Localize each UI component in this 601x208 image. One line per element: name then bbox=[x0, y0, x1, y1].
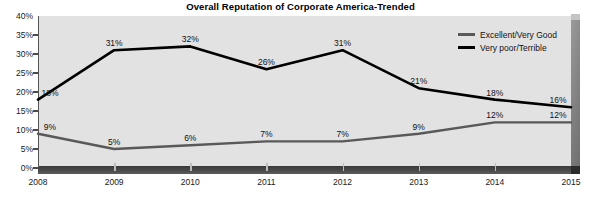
legend-item[interactable]: Excellent/Very Good bbox=[458, 28, 557, 41]
data-label-very-poor-terrible: 16% bbox=[541, 95, 575, 105]
chart-container: Overall Reputation of Corporate America-… bbox=[0, 0, 601, 208]
legend-item-label: Very poor/Terrible bbox=[480, 43, 547, 53]
data-label-excellent-very-good: 6% bbox=[173, 133, 207, 143]
legend-line-swatch bbox=[458, 46, 475, 49]
data-label-excellent-very-good: 9% bbox=[402, 122, 436, 132]
data-label-excellent-very-good: 12% bbox=[478, 110, 512, 120]
data-label-very-poor-terrible: 21% bbox=[402, 76, 436, 86]
chart-legend: Excellent/Very GoodVery poor/Terrible bbox=[458, 28, 557, 54]
data-label-very-poor-terrible: 32% bbox=[173, 34, 207, 44]
data-label-excellent-very-good: 5% bbox=[97, 137, 131, 147]
data-label-excellent-very-good: 12% bbox=[541, 110, 575, 120]
line-very-poor-terrible bbox=[38, 46, 571, 107]
data-label-excellent-very-good: 9% bbox=[33, 122, 67, 132]
legend-item-label: Excellent/Very Good bbox=[480, 30, 557, 40]
data-label-very-poor-terrible: 26% bbox=[249, 57, 283, 67]
data-label-excellent-very-good: 7% bbox=[249, 129, 283, 139]
data-label-very-poor-terrible: 18% bbox=[478, 88, 512, 98]
legend-item[interactable]: Very poor/Terrible bbox=[458, 41, 557, 54]
data-label-very-poor-terrible: 18% bbox=[33, 88, 67, 98]
legend-line-swatch bbox=[458, 33, 475, 36]
data-label-excellent-very-good: 7% bbox=[326, 129, 360, 139]
data-label-very-poor-terrible: 31% bbox=[326, 38, 360, 48]
data-label-very-poor-terrible: 31% bbox=[97, 38, 131, 48]
